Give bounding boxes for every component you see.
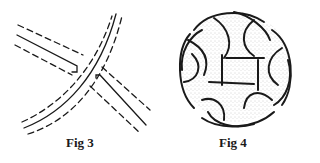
figure-3-caption: Fig 3 — [66, 135, 94, 151]
figure-4-caption: Fig 4 — [219, 135, 247, 151]
